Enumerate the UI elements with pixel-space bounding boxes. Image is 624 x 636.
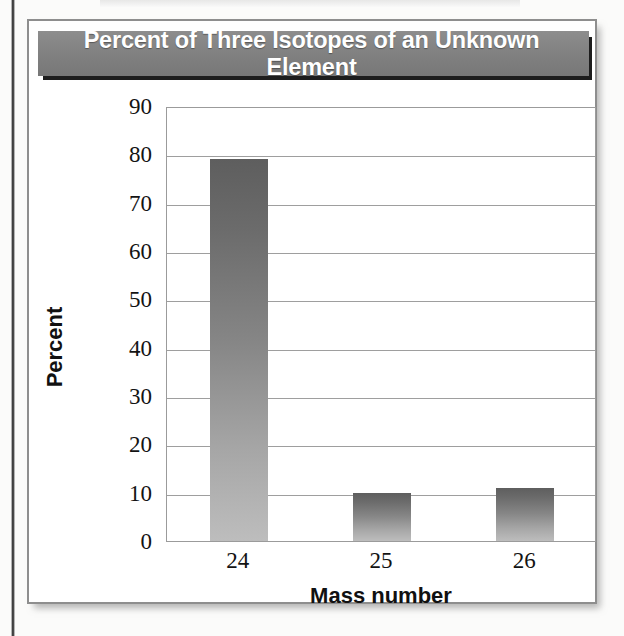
x-axis-title: Mass number	[166, 583, 596, 609]
x-axis-tick-label: 24	[226, 548, 249, 574]
x-axis-tick-labels: 242526	[166, 548, 596, 582]
plot-area	[166, 107, 596, 542]
bar-chart: Percent 9080706050403020100 242526 Mass …	[29, 86, 595, 602]
chart-title-banner: Percent of Three Isotopes of an Unknown …	[38, 31, 589, 76]
y-axis-tick-label: 50	[129, 287, 152, 313]
bars-layer	[167, 108, 595, 541]
scan-binding-edge-artifact	[11, 0, 15, 636]
y-axis-title: Percent	[42, 287, 68, 407]
y-axis-tick-label: 10	[129, 481, 152, 507]
scanned-page-background: Percent of Three Isotopes of an Unknown …	[0, 0, 624, 636]
x-axis-tick-label: 26	[513, 548, 536, 574]
y-axis-tick-label: 90	[129, 94, 152, 120]
bar	[496, 488, 554, 541]
chart-title: Percent of Three Isotopes of an Unknown …	[38, 27, 589, 81]
y-axis-tick-label: 80	[129, 142, 152, 168]
y-axis-tick-label: 0	[141, 529, 153, 555]
y-axis-tick-label: 40	[129, 336, 152, 362]
scan-top-cutoff-artifact	[100, 0, 520, 7]
y-axis-tick-label: 60	[129, 239, 152, 265]
figure-card: Percent of Three Isotopes of an Unknown …	[27, 19, 597, 604]
bar	[353, 493, 411, 541]
y-axis-tick-labels: 9080706050403020100	[84, 107, 158, 542]
bar	[210, 159, 268, 541]
x-axis-tick-label: 25	[370, 548, 393, 574]
y-axis-tick-label: 20	[129, 432, 152, 458]
y-axis-tick-label: 30	[129, 384, 152, 410]
y-axis-tick-label: 70	[129, 191, 152, 217]
